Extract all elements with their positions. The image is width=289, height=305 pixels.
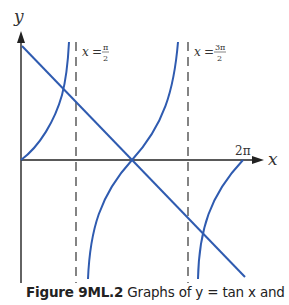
svg-text:2: 2 xyxy=(103,54,108,63)
caption-text: Graphs of y = tan x and xyxy=(127,284,284,300)
svg-text:=: = xyxy=(204,45,214,59)
tan-branch-3 xyxy=(198,160,243,279)
x-axis-label: x xyxy=(268,149,278,169)
y-axis-label: y xyxy=(13,6,24,26)
tangent-chart: y x 2π x = π 2 x = 3π 2 xyxy=(0,0,289,305)
svg-text:x: x xyxy=(194,45,201,59)
svg-text:=: = xyxy=(92,45,102,59)
svg-text:x: x xyxy=(82,45,89,59)
figure-caption: Figure 9ML.2 Graphs of y = tan x and xyxy=(26,284,285,300)
asymptote-label-3pi-over-2: x = 3π 2 xyxy=(194,43,226,63)
asymptote-label-pi-over-2: x = π 2 xyxy=(82,43,109,63)
svg-text:3π: 3π xyxy=(215,43,225,52)
figure-id: Figure 9ML.2 xyxy=(26,284,123,300)
y-axis-arrow-icon xyxy=(17,31,25,43)
tick-label-2pi: 2π xyxy=(235,144,251,158)
x-axis-arrow-icon xyxy=(252,156,264,164)
svg-text:π: π xyxy=(103,43,108,52)
tan-branch-1 xyxy=(21,42,69,160)
svg-text:2: 2 xyxy=(217,54,222,63)
linear-graph xyxy=(22,46,245,277)
